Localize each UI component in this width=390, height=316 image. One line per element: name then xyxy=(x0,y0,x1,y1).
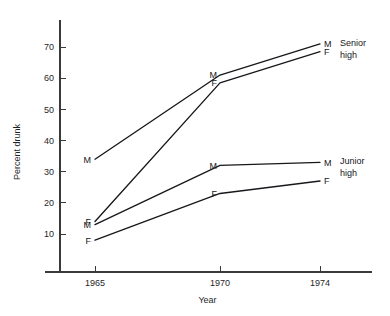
x-axis-title: Year xyxy=(198,295,216,305)
group-annotation-line1: Senior xyxy=(340,38,366,48)
y-tick-label: 60 xyxy=(44,73,54,83)
point-label-mid-junior-high-m: M xyxy=(210,161,218,171)
percent-drunk-line-chart: 10203040506070 Percent drunk 19651970197… xyxy=(0,0,390,316)
x-tick-label: 1974 xyxy=(310,278,330,288)
chart-background xyxy=(0,0,390,316)
point-label-end-senior-high-f: F xyxy=(324,47,330,57)
chart-container: 10203040506070 Percent drunk 19651970197… xyxy=(0,0,390,316)
group-annotation-line2: high xyxy=(340,168,357,178)
y-axis-title: Percent drunk xyxy=(12,123,22,180)
y-tick-label: 30 xyxy=(44,167,54,177)
group-annotation-line2: high xyxy=(340,50,357,60)
point-label-end-junior-high-f: F xyxy=(324,176,330,186)
x-tick-label: 1965 xyxy=(85,278,105,288)
y-tick-label: 50 xyxy=(44,105,54,115)
point-label-start-senior-high-m: M xyxy=(84,155,92,165)
point-label-start-junior-high-f: F xyxy=(86,236,92,246)
point-label-start-junior-high-m: M xyxy=(84,220,92,230)
group-annotation-line1: Junior xyxy=(340,156,365,166)
point-label-mid-senior-high-f: F xyxy=(212,78,218,88)
point-label-mid-junior-high-f: F xyxy=(212,189,218,199)
y-tick-label: 70 xyxy=(44,42,54,52)
x-tick-label: 1970 xyxy=(210,278,230,288)
y-tick-label: 10 xyxy=(44,229,54,239)
y-tick-label: 40 xyxy=(44,136,54,146)
point-label-end-junior-high-m: M xyxy=(324,158,332,168)
y-tick-label: 20 xyxy=(44,198,54,208)
